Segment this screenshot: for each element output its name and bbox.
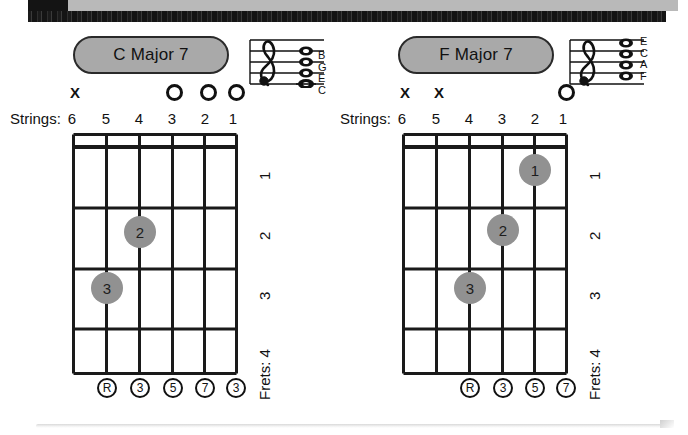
chord-chart-page: C Major 7 [0, 0, 688, 435]
finger-dot-3: 3 [454, 272, 486, 304]
staff-note-names: E C A F [640, 36, 648, 82]
interval-string-2: 5 [525, 378, 545, 398]
marker-string-6: X [397, 84, 413, 100]
fret-number-4-value: 4 [586, 349, 603, 357]
fret-number-3: 3 [256, 292, 273, 300]
interval-string-5: R [97, 378, 117, 398]
string-number-4: 4 [462, 110, 476, 127]
staff-note-3: A [640, 59, 648, 71]
finger-dot-2: 2 [124, 216, 156, 248]
staff-note-4: C [318, 85, 327, 97]
frets-prefix: Frets: [256, 362, 273, 400]
string-number-2: 2 [198, 110, 212, 127]
page-bottom-shadow [36, 424, 666, 428]
chord-title-pill: C Major 7 [73, 36, 229, 74]
marker-string-5 [101, 84, 117, 100]
string-number-5: 5 [99, 110, 113, 127]
staff-notation [248, 36, 326, 88]
staff-note-names: B G E C [318, 50, 327, 96]
fret-number-2: 2 [256, 232, 273, 240]
fret-number-1: 1 [586, 172, 603, 180]
string-number-1: 1 [556, 110, 570, 127]
marker-string-3 [166, 84, 183, 101]
strings-label: Strings: [10, 110, 61, 127]
chord-diagram-f-major-7: F Major 7 [330, 0, 688, 435]
interval-string-4: R [460, 378, 480, 398]
open-muted-markers: X X [390, 84, 570, 106]
finger-dot-1: 1 [519, 154, 551, 186]
marker-string-5: X [431, 84, 447, 100]
marker-string-1 [558, 84, 575, 101]
open-muted-markers: X [60, 84, 240, 106]
finger-dot-3: 3 [91, 272, 123, 304]
marker-string-2 [530, 84, 546, 100]
staff-note-4: F [640, 71, 648, 83]
page-corner-shadow [660, 420, 674, 428]
marker-string-1 [228, 84, 245, 101]
interval-string-1: 3 [226, 378, 246, 398]
string-number-4: 4 [132, 110, 146, 127]
finger-dot-2: 2 [487, 214, 519, 246]
chord-diagram-c-major-7: C Major 7 [0, 0, 344, 435]
interval-string-1: 7 [556, 378, 576, 398]
string-number-6: 6 [395, 110, 409, 127]
string-number-5: 5 [429, 110, 443, 127]
staff-note-3: E [318, 73, 327, 85]
marker-string-6: X [67, 84, 83, 100]
marker-string-4 [465, 84, 481, 100]
fret-number-4: Frets: 4 [256, 349, 273, 400]
fret-number-3: 3 [586, 292, 603, 300]
staff-note-1: E [640, 36, 648, 48]
string-number-1: 1 [226, 110, 240, 127]
string-number-6: 6 [65, 110, 79, 127]
marker-string-3 [498, 84, 514, 100]
interval-string-3: 5 [163, 378, 183, 398]
staff-note-1: B [318, 50, 327, 62]
fret-number-1: 1 [256, 172, 273, 180]
fretboard-grid [72, 133, 238, 375]
fret-number-2: 2 [586, 232, 603, 240]
frets-prefix: Frets: [586, 362, 603, 400]
chord-title-pill: F Major 7 [398, 36, 554, 74]
strings-label: Strings: [340, 110, 391, 127]
staff-notation [568, 36, 646, 88]
interval-string-3: 3 [493, 378, 513, 398]
string-number-3: 3 [165, 110, 179, 127]
interval-string-2: 7 [195, 378, 215, 398]
string-number-3: 3 [495, 110, 509, 127]
string-number-2: 2 [528, 110, 542, 127]
fret-number-4: Frets: 4 [586, 349, 603, 400]
fret-number-4-value: 4 [256, 349, 273, 357]
marker-string-2 [200, 84, 217, 101]
interval-string-4: 3 [130, 378, 150, 398]
marker-string-4 [135, 84, 151, 100]
